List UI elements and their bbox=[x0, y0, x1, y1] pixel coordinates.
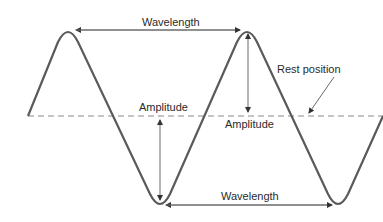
wave-curve bbox=[28, 32, 383, 204]
rest-position-pointer bbox=[309, 77, 334, 113]
wavelength-bottom-label: Wavelength bbox=[221, 191, 279, 202]
wavelength-top-label: Wavelength bbox=[142, 17, 200, 28]
wave-diagram bbox=[0, 0, 383, 222]
amplitude-right-label: Amplitude bbox=[225, 119, 274, 130]
rest-position-label: Rest position bbox=[277, 64, 341, 75]
amplitude-left-label: Amplitude bbox=[139, 102, 188, 113]
